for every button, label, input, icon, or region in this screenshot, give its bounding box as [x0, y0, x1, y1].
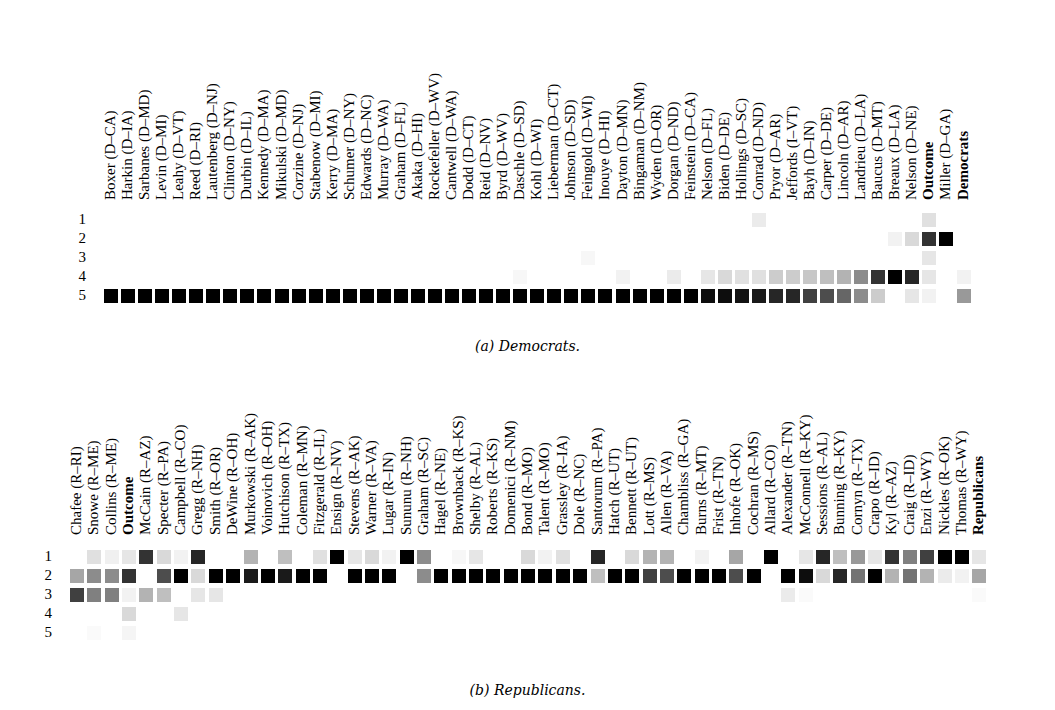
heatmap-cell	[660, 569, 674, 583]
heatmap-cell	[244, 550, 258, 564]
heatmap-cell	[625, 550, 639, 564]
column-label: Hutchison (R–TX)	[277, 422, 292, 535]
heatmap-cell	[244, 569, 258, 583]
heatmap-cell	[278, 569, 292, 583]
column-label: Fitzgerald (R–IL)	[312, 429, 327, 535]
heatmap-cell	[261, 569, 275, 583]
column-label: Campbell (R–CO)	[173, 425, 188, 535]
heatmap-cell	[105, 588, 119, 602]
heatmap-cell	[87, 626, 101, 640]
heatmap-cell	[833, 550, 847, 564]
heatmap-cell	[278, 550, 292, 564]
heatmap-cell	[139, 588, 153, 602]
column-label: Warner (R–VA)	[364, 440, 379, 535]
heatmap-cell	[70, 569, 84, 583]
heatmap-cell	[348, 569, 362, 583]
republicans-panel: Chafee (R–RI)Snowe (R–ME)Collins (R–ME)O…	[0, 0, 1055, 710]
column-label: McCain (R–AZ)	[138, 435, 153, 535]
column-label: Brownback (R–KS)	[451, 415, 466, 535]
heatmap-cell	[591, 569, 605, 583]
heatmap-cell	[643, 569, 657, 583]
heatmap-cell	[226, 569, 240, 583]
column-label: Allard (R–CO)	[763, 445, 778, 535]
column-label: Lott (R–MS)	[642, 457, 657, 535]
column-label: Cornyn (R–TX)	[850, 439, 865, 535]
row-label: 1	[38, 549, 52, 564]
heatmap-cell	[122, 569, 136, 583]
row-label: 4	[38, 606, 52, 621]
heatmap-cell	[313, 569, 327, 583]
heatmap-cell	[365, 569, 379, 583]
heatmap-cell	[122, 588, 136, 602]
heatmap-cell	[209, 588, 223, 602]
heatmap-cell	[712, 569, 726, 583]
column-label: Graham (R–SC)	[416, 437, 431, 535]
heatmap-cell	[695, 550, 709, 564]
column-label: Sununu (R–NH)	[399, 436, 414, 535]
heatmap-cell	[174, 550, 188, 564]
heatmap-cell	[903, 550, 917, 564]
heatmap-cell	[833, 569, 847, 583]
column-label: Stevens (R–AK)	[347, 435, 362, 535]
column-label: Voinovich (R–OH)	[260, 421, 275, 535]
heatmap-cell	[122, 550, 136, 564]
heatmap-cell	[434, 569, 448, 583]
column-label: Collins (R–ME)	[104, 438, 119, 535]
heatmap-cell	[781, 588, 795, 602]
heatmap-cell	[105, 569, 119, 583]
column-label: Enzi (R–WY)	[919, 451, 934, 535]
heatmap-cell	[191, 588, 205, 602]
heatmap-cell	[174, 569, 188, 583]
heatmap-cell	[660, 550, 674, 564]
column-label: Lugar (R–IN)	[381, 452, 396, 535]
column-label: Talent (R–MO)	[537, 442, 552, 535]
heatmap-cell	[105, 550, 119, 564]
heatmap-cell	[938, 550, 952, 564]
heatmap-cell	[799, 569, 813, 583]
heatmap-cell	[417, 569, 431, 583]
heatmap-cell	[729, 550, 743, 564]
heatmap-cell	[729, 569, 743, 583]
heatmap-cell	[677, 569, 691, 583]
column-label: Republicans	[971, 456, 986, 535]
heatmap-cell	[452, 569, 466, 583]
heatmap-cell	[139, 550, 153, 564]
heatmap-cell	[938, 569, 952, 583]
heatmap-cell	[816, 569, 830, 583]
heatmap-cell	[851, 569, 865, 583]
heatmap-cell	[625, 569, 639, 583]
heatmap-cell	[608, 569, 622, 583]
column-label: Ensign (R–NV)	[329, 440, 344, 535]
heatmap-cell	[643, 550, 657, 564]
column-label: Sessions (R–AL)	[815, 432, 830, 535]
column-label: Allen (R–VA)	[659, 451, 674, 535]
heatmap-cell	[799, 588, 813, 602]
heatmap-cell	[591, 550, 605, 564]
heatmap-cell	[365, 550, 379, 564]
column-label: Chafee (R–RI)	[69, 446, 84, 535]
heatmap-cell	[972, 569, 986, 583]
heatmap-cell	[851, 550, 865, 564]
heatmap-cell	[87, 550, 101, 564]
heatmap-cell	[122, 626, 136, 640]
heatmap-cell	[556, 550, 570, 564]
column-label: McConnell (R–KY)	[798, 415, 813, 535]
column-label: Specter (R–PA)	[156, 441, 171, 535]
heatmap-cell	[868, 550, 882, 564]
column-label: Domenici (R–NM)	[503, 420, 518, 535]
heatmap-cell	[816, 550, 830, 564]
heatmap-cell	[521, 569, 535, 583]
heatmap-cell	[538, 569, 552, 583]
column-label: Snowe (R–ME)	[86, 440, 101, 535]
column-label: Burns (R–MT)	[694, 445, 709, 535]
heatmap-cell	[382, 550, 396, 564]
heatmap-cell	[469, 569, 483, 583]
heatmap-cell	[209, 569, 223, 583]
heatmap-cell	[191, 550, 205, 564]
heatmap-cell	[885, 550, 899, 564]
column-label: Smith (R–OR)	[208, 447, 223, 535]
column-label: Santorum (R–PA)	[590, 428, 605, 535]
column-label: Thomas (R–WY)	[954, 430, 969, 535]
column-label: DeWine (R–OH)	[225, 433, 240, 535]
heatmap-cell	[330, 550, 344, 564]
